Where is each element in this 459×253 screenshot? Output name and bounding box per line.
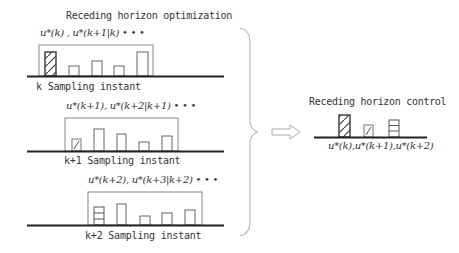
predicted-bar [185, 210, 195, 225]
predicted-bar [117, 134, 126, 151]
curly-brace-icon [240, 28, 258, 236]
predicted-bar [162, 136, 172, 151]
applied-bar-k [339, 115, 350, 137]
row-2-diagram [27, 118, 224, 152]
row-3-diagram [27, 192, 224, 226]
row-1-diagram [27, 45, 224, 77]
predicted-bar [92, 61, 102, 76]
applied-control-bar [45, 52, 56, 76]
predicted-bar [114, 66, 124, 76]
predicted-bar [140, 216, 150, 225]
row-1-sequence: u*(k) , u*(k+1|k) • • • [40, 27, 145, 38]
optimization-title: Receding horizon optimization [66, 10, 232, 21]
row-1-label: k Sampling instant [36, 81, 141, 92]
predicted-bar [137, 52, 148, 76]
predicted-bar [162, 213, 172, 225]
predicted-bar [117, 204, 126, 225]
applied-bar-k2 [389, 120, 399, 137]
control-result-diagram [314, 115, 427, 138]
row-3-sequence: u*(k+2), u*(k+3|k+2) • • • [88, 174, 218, 185]
predicted-bar [139, 142, 149, 151]
row-3-label: k+2 Sampling instant [85, 230, 201, 241]
control-sequence: u*(k),u*(k+1),u*(k+2) [328, 140, 433, 151]
applied-control-bar [94, 207, 104, 225]
predicted-bar [94, 129, 104, 151]
row-2-label: k+1 Sampling instant [64, 155, 180, 166]
control-title: Receding horizon control [309, 96, 446, 107]
hollow-arrow-icon [272, 125, 300, 139]
row-2-sequence: u*(k+1), u*(k+2|k+1) • • • [66, 100, 196, 111]
predicted-bar [69, 66, 79, 76]
